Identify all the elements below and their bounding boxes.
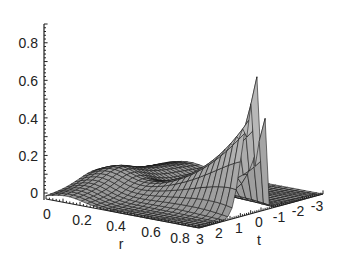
- z-tick-label: 0.6: [19, 73, 39, 89]
- t-tick-label: 3: [196, 231, 204, 247]
- t-tick-label: -2: [292, 203, 305, 219]
- r-axis-title: r: [119, 236, 124, 252]
- t-tick-label: 0: [255, 214, 263, 230]
- r-tick-label: 0.6: [141, 224, 161, 240]
- z-tick-label: 0.8: [19, 35, 39, 51]
- z-axis: 0.8 0.6 0.4 0.2 0: [19, 24, 48, 201]
- t-tick-label: -1: [273, 209, 286, 225]
- r-tick-label: 0.2: [72, 212, 92, 228]
- t-tick-label: 1: [235, 220, 243, 236]
- z-tick-label: 0.2: [19, 148, 39, 164]
- z-tick-label: 0.4: [19, 111, 39, 127]
- t-tick-label: -3: [311, 198, 324, 214]
- z-tick-label: 0: [30, 185, 38, 201]
- surface-plot: 0.8 0.6 0.4 0.2 0 0 0.2 0.4 0.6 0.8 r 3 …: [0, 0, 343, 257]
- t-tick-label: 2: [215, 225, 223, 241]
- r-tick-label: 0.8: [170, 230, 190, 246]
- r-tick-label: 0: [43, 206, 51, 222]
- r-tick-label: 0.4: [106, 218, 126, 234]
- t-axis-title: t: [257, 232, 261, 248]
